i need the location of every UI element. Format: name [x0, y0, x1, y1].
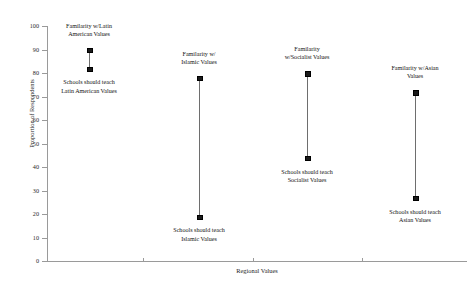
annotation-familiarity: Familarity w/Socialist Values — [285, 45, 330, 61]
annotation-familiarity: Familarity w/Asian Values — [386, 64, 445, 80]
y-axis-tick — [42, 238, 47, 239]
data-point-marker-familiarity — [413, 90, 418, 95]
x-axis-line — [47, 261, 467, 262]
x-axis-tick — [253, 258, 254, 262]
data-point-marker-familiarity — [87, 48, 92, 53]
data-point-marker-schools-should-teach — [197, 215, 202, 220]
chart-canvas: 1009080706050403020100 Proportion of Res… — [0, 0, 474, 287]
y-axis-title: Proportion of Respondents — [28, 34, 35, 194]
series-connector-line — [307, 73, 308, 158]
y-axis-tick — [42, 120, 47, 121]
y-axis-tick — [42, 214, 47, 215]
annotation-schools-should-teach: Schools should teach Socialist Values — [281, 168, 332, 184]
annotation-schools-should-teach: Schools should teach Asian Values — [389, 208, 440, 224]
x-axis-tick — [143, 258, 144, 262]
y-axis-tick — [42, 50, 47, 51]
y-axis-tick — [42, 191, 47, 192]
annotation-schools-should-teach: Schools should teach Latin American Valu… — [61, 78, 117, 94]
y-axis-tick — [42, 26, 47, 27]
y-axis-tick — [42, 73, 47, 74]
data-point-marker-schools-should-teach — [413, 196, 418, 201]
y-axis-tick — [42, 97, 47, 98]
x-axis-tick — [362, 258, 363, 262]
x-axis-title: Regional Values — [47, 267, 467, 274]
annotation-schools-should-teach: Schools should teach Islamic Values — [173, 226, 224, 242]
y-axis-tick — [42, 167, 47, 168]
data-point-marker-schools-should-teach — [305, 156, 310, 161]
series-connector-line — [199, 78, 200, 217]
series-connector-line — [415, 92, 416, 198]
data-point-marker-familiarity — [197, 76, 202, 81]
annotation-familiarity: Familarity w/Latin American Values — [66, 22, 112, 38]
y-axis-tick — [42, 144, 47, 145]
y-axis-tick — [42, 261, 47, 262]
data-point-marker-schools-should-teach — [87, 67, 92, 72]
y-axis-line — [47, 26, 48, 261]
data-point-marker-familiarity — [305, 71, 310, 76]
annotation-familiarity: Familarity w/ Islamic Values — [181, 50, 217, 66]
